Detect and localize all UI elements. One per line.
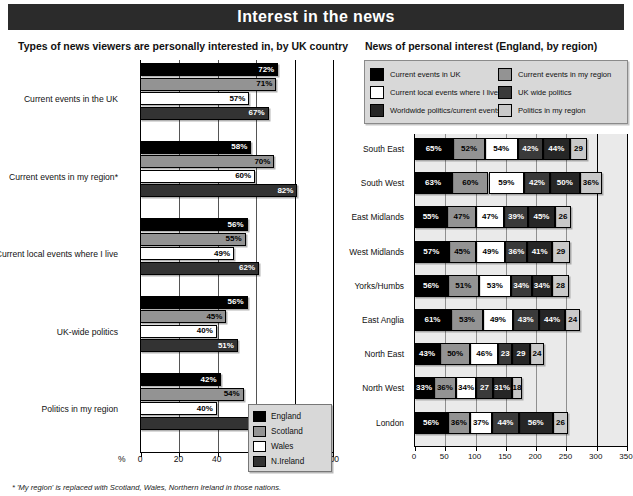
- right-bar-segment: 65%: [414, 138, 453, 160]
- left-bar-group: 56%55%49%62%Current local events where I…: [0, 218, 350, 296]
- right-legend-swatch: [498, 68, 512, 81]
- right-segment-value: 41%: [532, 248, 548, 256]
- right-segment-value: 47%: [482, 213, 498, 221]
- left-category-label: UK-wide politics: [57, 327, 118, 337]
- right-segment-value: 47%: [454, 213, 470, 221]
- right-segment-value: 50%: [447, 350, 463, 358]
- left-legend-item: N.Ireland: [253, 454, 327, 469]
- left-legend-swatch: [253, 426, 266, 437]
- right-segment-value: 37%: [473, 419, 489, 427]
- left-bar-value: 56%: [228, 298, 244, 306]
- right-bar-segment: 36%: [434, 377, 456, 399]
- right-chart-subtitle: News of personal interest (England, by r…: [365, 40, 597, 52]
- right-bar-segment: 54%: [485, 138, 518, 160]
- right-segment-value: 42%: [529, 179, 545, 187]
- right-segment-value: 63%: [425, 179, 441, 187]
- left-bar-group: 72%71%57%67%Current events in the UK: [0, 63, 350, 141]
- right-bar-segment: 47%: [447, 206, 475, 228]
- left-bar-value: 40%: [197, 405, 213, 413]
- right-bar-segment: 27: [476, 377, 492, 399]
- right-bar-segment: 28: [552, 275, 569, 297]
- left-bar: 56%: [140, 218, 248, 231]
- right-segment-value: 53%: [487, 282, 503, 290]
- right-bar-segment: 24: [530, 343, 545, 365]
- right-row-label: North West: [362, 383, 404, 393]
- right-segment-value: 26: [556, 419, 565, 427]
- left-bar-value: 40%: [197, 327, 213, 335]
- right-bar-segment: 29: [570, 138, 588, 160]
- left-axis-unit-label: %: [118, 454, 126, 464]
- right-bar-row: West Midlands57%45%49%36%41%29: [414, 241, 626, 263]
- left-bar: 70%: [140, 155, 274, 168]
- right-legend-item: UK wide politics: [498, 86, 626, 99]
- left-bar-value: 72%: [258, 66, 274, 74]
- right-bar-segment: 59%: [489, 172, 525, 194]
- right-bar-row: Yorks/Humbs56%51%53%34%34%28: [414, 275, 626, 297]
- right-bar-segment: 34%: [532, 275, 553, 297]
- left-bar: 60%: [140, 170, 255, 183]
- right-bar-segment: 56%: [519, 412, 553, 434]
- right-segment-value: 54%: [493, 145, 509, 153]
- right-row-label: South East: [363, 144, 404, 154]
- right-bar-segment: 49%: [483, 309, 513, 331]
- right-bar-segment: 36%: [580, 172, 602, 194]
- left-bar: 82%: [140, 184, 297, 197]
- right-segment-value: 43%: [419, 350, 435, 358]
- right-segment-value: 36%: [437, 384, 453, 392]
- left-bar: 40%: [140, 402, 217, 415]
- left-bar-value: 82%: [277, 187, 293, 195]
- right-bar-segment: 24: [565, 309, 580, 331]
- left-bar-value: 56%: [228, 221, 244, 229]
- right-bar-segment: 31%: [493, 377, 512, 399]
- right-segment-value: 28: [556, 282, 565, 290]
- right-bar-row: North East43%50%46%232924: [414, 343, 626, 365]
- right-bar-segment: 55%: [414, 206, 447, 228]
- right-row-label: East Anglia: [362, 315, 404, 325]
- right-bar-segment: 53%: [479, 275, 511, 297]
- right-axis-tick-label: 150: [498, 452, 511, 461]
- right-legend-label: Current events in my region: [518, 70, 611, 79]
- right-segment-value: 53%: [459, 316, 475, 324]
- right-bar-segment: 34%: [511, 275, 532, 297]
- left-bar-value: 58%: [231, 143, 247, 151]
- right-bar-segment: 33%: [414, 377, 434, 399]
- left-category-label: Current events in my region*: [9, 172, 118, 182]
- left-bar: 55%: [140, 233, 246, 246]
- left-bar: 45%: [140, 310, 226, 323]
- right-segment-value: 55%: [423, 213, 439, 221]
- right-bar-segment: 56%: [414, 412, 448, 434]
- right-row-label: London: [376, 418, 404, 428]
- right-segment-value: 24: [533, 350, 542, 358]
- right-segment-value: 44%: [497, 419, 513, 427]
- right-legend-label: Current local events where I live: [390, 88, 498, 97]
- left-bar-value: 55%: [226, 235, 242, 243]
- right-axis-tick: [415, 446, 416, 451]
- right-segment-value: 60%: [462, 179, 478, 187]
- right-axis-tick-label: 250: [559, 452, 572, 461]
- footnote: * 'My region' is replaced with Scotland,…: [12, 483, 281, 492]
- right-axis-tick: [597, 446, 598, 451]
- left-category-label: Current local events where I live: [0, 249, 118, 259]
- left-axis-tick-label: 0: [138, 454, 143, 464]
- right-segment-value: 49%: [490, 316, 506, 324]
- right-bar-segment: 43%: [513, 309, 539, 331]
- right-axis-tick-label: 50: [440, 452, 449, 461]
- right-segment-value: 27: [480, 384, 489, 392]
- left-bar-value: 67%: [249, 109, 265, 117]
- left-bar-value: 71%: [256, 80, 272, 88]
- right-bar-segment: 44%: [543, 138, 570, 160]
- left-bar-value: 60%: [235, 172, 251, 180]
- right-bar-segment: 49%: [476, 241, 506, 263]
- right-bar-segment: 41%: [527, 241, 552, 263]
- right-segment-value: 45%: [454, 248, 470, 256]
- right-segment-value: 24: [568, 316, 577, 324]
- right-segment-value: 29: [556, 248, 565, 256]
- right-bar-segment: 36%: [448, 412, 470, 434]
- right-segment-value: 46%: [476, 350, 492, 358]
- right-bar-segment: 43%: [414, 343, 440, 365]
- left-legend-swatch: [253, 411, 266, 422]
- right-segment-value: 52%: [461, 145, 477, 153]
- right-bar-segment: 26: [555, 206, 571, 228]
- page-title: Interest in the news: [237, 8, 394, 26]
